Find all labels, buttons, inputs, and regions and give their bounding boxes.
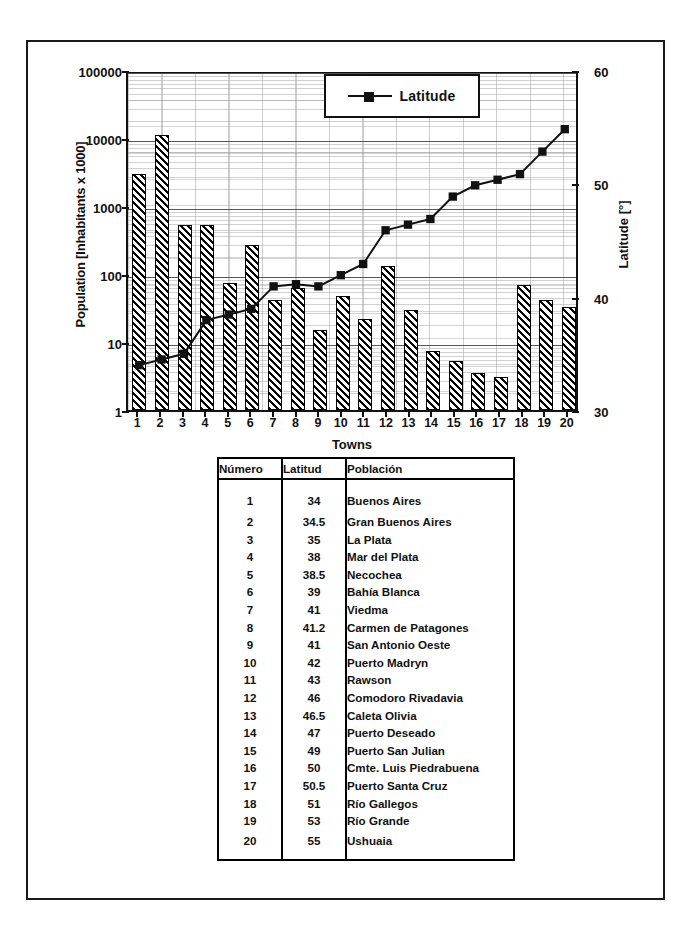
latitude-data-marker [426,215,434,223]
cell-numero: 3 [219,531,282,549]
x-axis-tick-label: 5 [224,416,231,430]
cell-latitud: 55 [282,830,346,859]
cell-numero: 17 [219,777,282,795]
x-axis-tick-label: 19 [537,416,551,430]
column-header-latitud: Latitud [282,459,346,479]
table-row: 1750.5Puerto Santa Cruz [219,777,513,795]
x-axis-tick-label: 6 [247,416,254,430]
cell-latitud: 34.5 [282,513,346,531]
latitude-data-marker [314,282,322,290]
cell-numero: 5 [219,566,282,584]
column-header-numero: Número [219,459,282,479]
x-axis-tick-label: 3 [179,416,186,430]
cell-latitud: 34 [282,479,346,513]
y-axis-left-tickmark [122,207,129,209]
latitude-polyline [139,129,565,365]
x-axis-title: Towns [126,437,578,452]
latitude-data-marker [538,147,546,155]
latitude-data-marker [493,176,501,184]
cell-latitud: 49 [282,742,346,760]
y-axis-left-tick-label: 10000 [86,133,122,148]
x-axis-tick-label: 8 [292,416,299,430]
table-row: 1953Río Grande [219,812,513,830]
y-axis-right-tickmark [572,298,579,300]
table-row: 134Buenos Aires [219,479,513,513]
latitude-data-marker [157,355,165,363]
table-row: 335La Plata [219,531,513,549]
latitude-data-marker [337,271,345,279]
latitude-data-marker [135,361,143,369]
table-row: 741Viedma [219,601,513,619]
y-axis-right-tick-label: 50 [594,178,608,193]
y-axis-right-tick-label: 30 [594,405,608,420]
cell-numero: 19 [219,812,282,830]
page-frame: Population [Inhabitants x 1000] Latitude… [26,40,665,900]
latitude-data-marker [247,305,255,313]
x-axis-tick-label: 10 [334,416,348,430]
y-axis-right-tick-label: 60 [594,65,608,80]
y-axis-left-tick-label: 100000 [79,65,122,80]
latitude-data-marker [359,260,367,268]
y-axis-left-tick-label: 1 [115,405,122,420]
cell-poblacion: Comodoro Rivadavia [346,689,513,707]
latitude-data-marker [180,350,188,358]
latitude-data-marker [202,316,210,324]
latitude-data-marker [561,125,569,133]
cell-latitud: 41.2 [282,619,346,637]
towns-table: Número Latitud Población 134Buenos Aires… [217,457,515,861]
x-axis-tick-label: 12 [379,416,393,430]
table-row: 1549Puerto San Julian [219,742,513,760]
population-latitude-chart: Population [Inhabitants x 1000] Latitude… [28,42,667,442]
table-row: 1143Rawson [219,671,513,689]
cell-poblacion: Necochea [346,566,513,584]
cell-poblacion: Gran Buenos Aires [346,513,513,531]
x-axis-tick-label: 15 [447,416,461,430]
x-axis-tick-labels: 1234567891011121314151617181920 [126,416,578,434]
latitude-data-marker [269,282,277,290]
cell-poblacion: Cmte. Luis Piedrabuena [346,759,513,777]
cell-numero: 20 [219,830,282,859]
line-series-latitude [128,73,576,410]
table-row: 2055Ushuaia [219,830,513,859]
cell-numero: 14 [219,724,282,742]
y-axis-left-tick-label: 10 [108,337,122,352]
x-axis-tick-label: 18 [515,416,529,430]
cell-numero: 9 [219,636,282,654]
latitude-data-marker [292,280,300,288]
x-axis-tick-label: 7 [269,416,276,430]
x-axis-tick-label: 16 [469,416,483,430]
y-axis-left-tick-label: 1000 [93,201,122,216]
y-axis-right-tickmark [572,184,579,186]
x-axis-tick-label: 11 [357,416,370,430]
table-row: 1346.5Caleta Olivia [219,707,513,725]
y-axis-right-tickmark [572,411,579,413]
cell-numero: 15 [219,742,282,760]
y-axis-left-tickmark [122,343,129,345]
table-row: 538.5Necochea [219,566,513,584]
cell-poblacion: Río Grande [346,812,513,830]
cell-poblacion: Rawson [346,671,513,689]
cell-latitud: 47 [282,724,346,742]
cell-numero: 11 [219,671,282,689]
cell-numero: 6 [219,583,282,601]
cell-latitud: 50.5 [282,777,346,795]
table-row: 1246Comodoro Rivadavia [219,689,513,707]
x-axis-tick-label: 20 [560,416,574,430]
table-body: 134Buenos Aires234.5Gran Buenos Aires335… [219,479,513,859]
cell-numero: 1 [219,479,282,513]
latitude-data-marker [225,310,233,318]
table-row: 234.5Gran Buenos Aires [219,513,513,531]
cell-numero: 12 [219,689,282,707]
table-row: 1042Puerto Madryn [219,654,513,672]
x-axis-tick-label: 2 [156,416,163,430]
cell-numero: 7 [219,601,282,619]
cell-poblacion: San Antonio Oeste [346,636,513,654]
table-row: 941San Antonio Oeste [219,636,513,654]
cell-poblacion: Viedma [346,601,513,619]
cell-poblacion: Río Gallegos [346,795,513,813]
latitude-data-marker [471,181,479,189]
y-axis-left-tickmark [122,411,129,413]
cell-latitud: 35 [282,531,346,549]
cell-poblacion: Mar del Plata [346,548,513,566]
cell-poblacion: Ushuaia [346,830,513,859]
